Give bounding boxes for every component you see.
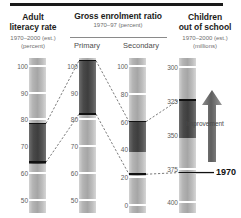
axis-tick-label: 80 xyxy=(121,90,128,97)
value-marker xyxy=(179,99,196,101)
strip-segment-divider xyxy=(79,172,96,174)
column-header-gross-enrolment: Gross enrolment ratio 1970–97 (percent) xyxy=(66,12,170,29)
axis-tick-label: 60 xyxy=(121,118,128,125)
range-band-adult-literacy-rate xyxy=(29,123,46,163)
secondary-label: Secondary xyxy=(112,41,170,50)
column-header-primary: Primary xyxy=(64,41,110,50)
col4-title-line2: out of school xyxy=(179,22,232,32)
primary-label: Primary xyxy=(64,41,110,50)
axis-tick-label: 50 xyxy=(71,196,78,203)
value-marker xyxy=(129,173,146,175)
axis-tick-label: 40 xyxy=(121,146,128,153)
strip-segment-divider xyxy=(29,199,46,201)
value-strip-gross-enrolment-primary xyxy=(79,58,96,213)
axis-tick-label: 100 xyxy=(67,63,78,70)
axis-tick-label: 80 xyxy=(71,116,78,123)
strip-segment-divider xyxy=(29,65,46,67)
strip-segment-divider xyxy=(79,145,96,147)
axis-tick-label: 70 xyxy=(71,143,78,150)
value-strip-children-out-of-school xyxy=(179,58,196,213)
axis-tick-label: 100 xyxy=(117,63,128,70)
top-divider-rule xyxy=(10,3,223,6)
axis-tick-label: 325 xyxy=(167,98,178,105)
column-header-children-out-of-school: Children out of school 1970–2000 (est.) … xyxy=(170,13,240,50)
strip-segment-divider xyxy=(29,118,46,120)
axis-tick-label: 300 xyxy=(167,64,178,71)
strip-segment-divider xyxy=(29,172,46,174)
axis-adult-literacy-rate: 1009080706050 xyxy=(8,58,28,213)
column-header-adult-literacy: Adult literacy rate 1970–2000 (est.) (pe… xyxy=(2,13,64,50)
axis-tick-label: 60 xyxy=(71,169,78,176)
col1-subtitle-line2: (percent) xyxy=(21,43,45,49)
range-band-gross-enrolment-secondary xyxy=(129,122,146,152)
year-label-1970: 1970 xyxy=(216,167,236,177)
strip-segment-divider xyxy=(179,66,196,68)
strip-segment-divider xyxy=(129,176,146,178)
value-marker xyxy=(29,161,46,163)
axis-tick-label: 400 xyxy=(167,199,178,206)
col4-subtitle-line1: 1970–2000 (est.) xyxy=(182,35,227,41)
strip-segment-divider xyxy=(79,118,96,120)
axis-tick-label: 50 xyxy=(21,196,28,203)
strip-segment-divider xyxy=(179,201,196,203)
axis-tick-label: 70 xyxy=(21,143,28,150)
axis-tick-label: 80 xyxy=(21,116,28,123)
col4-subtitle-line2: (millions) xyxy=(193,43,217,49)
strip-segment-divider xyxy=(79,199,96,201)
value-marker xyxy=(179,172,196,174)
axis-tick-label: 90 xyxy=(71,89,78,96)
axis-tick-label: 0 xyxy=(124,201,128,208)
gross-enrolment-underline xyxy=(70,37,167,38)
strip-segment-divider xyxy=(129,93,146,95)
axis-tick-label: 60 xyxy=(21,169,28,176)
axis-children-out-of-school: 300325350375400 xyxy=(158,58,178,213)
axis-gross-enrolment-primary: 1009080706050 xyxy=(58,58,78,213)
col1-title-line1: Adult xyxy=(22,12,43,22)
value-marker xyxy=(129,121,146,123)
col4-title-line1: Children xyxy=(188,12,222,22)
strip-segment-divider xyxy=(179,168,196,170)
axis-tick-label: 350 xyxy=(167,131,178,138)
range-band-gross-enrolment-primary xyxy=(79,61,96,116)
axis-tick-label: 90 xyxy=(21,89,28,96)
strip-segment-divider xyxy=(29,92,46,94)
axis-gross-enrolment-secondary: 100806040200 xyxy=(108,58,128,213)
improvement-label: Improvement xyxy=(186,120,224,127)
col23-title: Gross enrolment ratio xyxy=(74,11,162,21)
col1-subtitle-line1: 1970–2000 (est.) xyxy=(10,35,55,41)
value-strip-gross-enrolment-secondary xyxy=(129,58,146,213)
col23-subtitle: 1970–97 (percent) xyxy=(93,22,142,28)
value-marker xyxy=(79,113,96,115)
axis-tick-label: 375 xyxy=(167,165,178,172)
col1-title-line2: literacy rate xyxy=(9,22,56,32)
value-strip-adult-literacy-rate xyxy=(29,58,46,213)
value-marker xyxy=(29,123,46,125)
strip-segment-divider xyxy=(129,204,146,206)
axis-tick-label: 20 xyxy=(121,174,128,181)
column-header-secondary: Secondary xyxy=(112,41,170,50)
strip-segment-divider xyxy=(129,65,146,67)
chart-figure: Adult literacy rate 1970–2000 (est.) (pe… xyxy=(0,0,241,218)
axis-tick-label: 100 xyxy=(17,63,28,70)
value-marker xyxy=(79,60,96,62)
